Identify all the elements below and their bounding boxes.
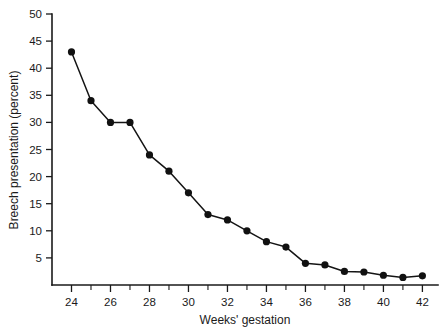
x-tick-label-38: 38 [338,296,351,308]
data-point-week-27 [126,119,133,126]
data-point-week-25 [87,97,94,104]
data-point-week-28 [146,151,153,158]
y-tick-label-50: 50 [29,8,42,20]
data-series [68,48,426,281]
data-point-week-32 [224,216,231,223]
y-tick-label-35: 35 [29,89,42,101]
y-axis-ticks [46,14,52,258]
data-point-week-37 [321,261,328,268]
data-point-week-24 [68,48,75,55]
x-tick-label-24: 24 [65,296,78,308]
y-tick-label-45: 45 [29,35,42,47]
x-tick-label-32: 32 [221,296,234,308]
y-tick-label-15: 15 [29,198,42,210]
series-line-breech [71,52,422,277]
y-tick-label-30: 30 [29,116,42,128]
y-axis-tick-labels: 5101520253035404550 [29,8,42,264]
data-point-week-42 [419,272,426,279]
data-point-week-39 [360,268,367,275]
y-tick-label-25: 25 [29,144,42,156]
data-point-week-33 [243,227,250,234]
y-axis: 5101520253035404550 [29,8,52,285]
data-point-week-26 [107,119,114,126]
data-point-week-35 [282,243,289,250]
data-point-week-29 [165,168,172,175]
y-tick-label-10: 10 [29,225,42,237]
x-tick-label-26: 26 [104,296,117,308]
data-point-week-40 [380,272,387,279]
x-tick-label-28: 28 [143,296,156,308]
y-axis-title: Breech presentation (percent) [7,71,21,230]
x-tick-label-42: 42 [416,296,429,308]
data-point-week-38 [341,268,348,275]
x-tick-label-36: 36 [299,296,312,308]
data-point-week-31 [204,211,211,218]
x-axis-tick-labels: 24262830323436384042 [65,296,429,308]
y-tick-label-5: 5 [36,252,42,264]
x-tick-label-40: 40 [377,296,390,308]
x-axis-title: Weeks' gestation [200,313,291,327]
x-tick-label-30: 30 [182,296,195,308]
y-tick-label-20: 20 [29,171,42,183]
breech-presentation-chart: 5101520253035404550 24262830323436384042… [0,0,447,335]
chart-canvas: 5101520253035404550 24262830323436384042… [0,0,447,335]
x-axis: 24262830323436384042 [52,285,438,308]
y-tick-label-40: 40 [29,62,42,74]
series-markers [68,48,426,281]
data-point-week-34 [263,238,270,245]
data-point-week-30 [185,189,192,196]
x-tick-label-34: 34 [260,296,273,308]
data-point-week-36 [302,260,309,267]
data-point-week-41 [399,274,406,281]
